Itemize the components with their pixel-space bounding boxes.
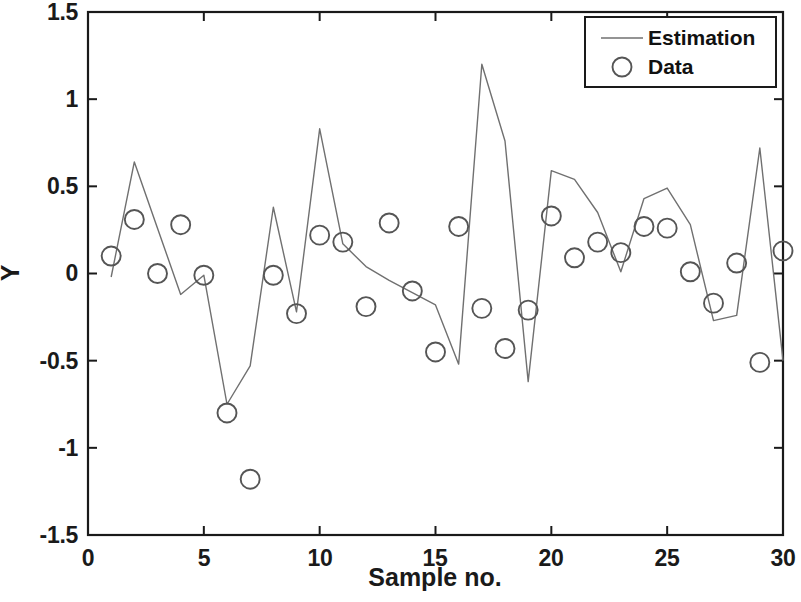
data-point-marker — [542, 206, 561, 225]
data-point-marker — [658, 219, 677, 238]
axis-ticks — [88, 12, 783, 535]
data-point-marker — [704, 294, 723, 313]
data-point-marker — [449, 217, 468, 236]
x-tick-label-2: 5 — [198, 545, 211, 572]
x-tick-label-5: 20 — [539, 545, 564, 572]
x-tick-label-3: 10 — [308, 545, 333, 572]
data-point-marker — [241, 470, 260, 489]
data-point-marker — [403, 281, 422, 300]
legend-label-estimation: Estimation — [648, 26, 755, 50]
plot-frame — [88, 12, 783, 535]
data-point-marker — [750, 353, 769, 372]
x-axis-title: Sample no. — [368, 563, 501, 592]
data-point-marker — [264, 266, 283, 285]
axes-frame — [88, 12, 783, 535]
data-point-marker — [125, 210, 144, 229]
data-point-marker — [635, 217, 654, 236]
data-point-marker — [380, 213, 399, 232]
data-point-marker — [218, 403, 237, 422]
y-tick-label-1: 1.5 — [10, 0, 78, 26]
data-point-marker — [148, 264, 167, 283]
data-point-marker — [102, 247, 121, 266]
data-point-marker — [588, 233, 607, 252]
data-point-marker — [681, 262, 700, 281]
data-point-marker — [310, 226, 329, 245]
y-tick-label-6: -1 — [10, 435, 78, 462]
data-point-marker — [496, 339, 515, 358]
x-tick-label-6: 25 — [655, 545, 680, 572]
x-tick-label-7: 30 — [771, 545, 796, 572]
data-point-marker — [171, 215, 190, 234]
y-axis-title: Y — [0, 265, 25, 282]
estimation-polyline — [111, 64, 783, 404]
x-tick-label-1: 0 — [82, 545, 95, 572]
y-tick-label-7: -1.5 — [10, 522, 78, 549]
chart-figure: 1.5 1 0.5 0 -0.5 -1 -1.5 0 5 10 15 20 25… — [0, 0, 801, 602]
data-point-marker — [565, 248, 584, 267]
data-point-marker — [426, 342, 445, 361]
data-marker-series — [102, 206, 793, 488]
y-tick-label-3: 0.5 — [10, 173, 78, 200]
estimation-line-series — [111, 64, 783, 404]
data-point-marker — [472, 299, 491, 318]
y-tick-label-2: 1 — [10, 86, 78, 113]
data-point-marker — [357, 297, 376, 316]
plot-canvas — [0, 0, 801, 602]
y-tick-label-5: -0.5 — [10, 348, 78, 375]
legend-label-data: Data — [648, 55, 694, 79]
